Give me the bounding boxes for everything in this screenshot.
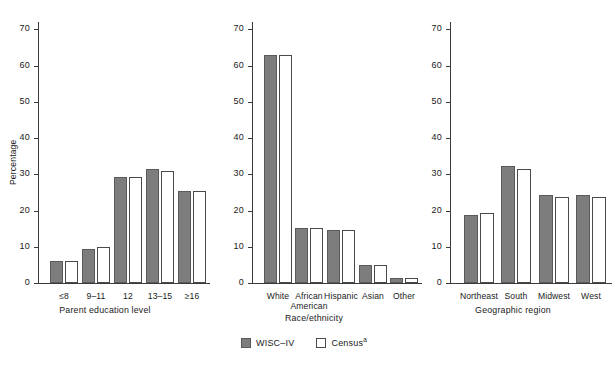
y-tick-label: 0	[4, 278, 30, 287]
bar-group	[390, 22, 418, 283]
x-axis-title: Parent education level	[0, 305, 210, 315]
plot-area-1: 010203040506070WhiteAfricanAmericanHispa…	[210, 0, 418, 330]
x-tick-label: West	[557, 291, 616, 301]
legend-label-text: Census	[331, 338, 363, 348]
x-axis-title: Geographic region	[418, 305, 608, 315]
bar-census	[193, 191, 206, 283]
bar-group	[576, 22, 606, 283]
y-tick	[248, 247, 253, 248]
bar-wisc-iv	[264, 55, 277, 283]
bar-wisc-iv	[539, 195, 553, 283]
y-tick	[34, 247, 39, 248]
y-tick-label: 70	[416, 24, 442, 33]
legend-label-wisc: WISC–IV	[256, 338, 294, 348]
bar-census	[310, 228, 323, 283]
y-axis-line	[252, 22, 253, 284]
y-tick	[446, 138, 451, 139]
y-tick-label: 20	[218, 206, 244, 215]
y-axis-line	[38, 22, 39, 284]
y-tick-label: 50	[218, 97, 244, 106]
legend-item-census[interactable]: Censusa	[316, 338, 367, 348]
bar-wisc-iv	[390, 278, 403, 283]
x-axis-title: Race/ethnicity	[210, 313, 418, 323]
bar-group	[464, 22, 494, 283]
bar-wisc-iv	[576, 195, 590, 283]
bar-wisc-iv	[82, 249, 95, 283]
y-tick-label: 10	[4, 242, 30, 251]
bar-census	[97, 247, 110, 283]
bar-census	[161, 171, 174, 283]
bar-census	[374, 265, 387, 283]
x-tick-label-line: ≥16	[185, 291, 200, 301]
y-tick	[248, 102, 253, 103]
y-tick	[446, 211, 451, 212]
y-tick-label: 70	[4, 24, 30, 33]
x-axis-line	[38, 283, 210, 284]
y-tick	[446, 174, 451, 175]
chart-legend: WISC–IVCensusa	[0, 338, 608, 348]
y-tick	[446, 102, 451, 103]
y-tick-label: 10	[218, 242, 244, 251]
bar-census	[129, 177, 142, 283]
bar-group	[264, 22, 292, 283]
y-tick-label: 40	[416, 133, 442, 142]
legend-label-text: WISC–IV	[256, 338, 294, 348]
y-tick	[446, 29, 451, 30]
y-axis-title: Percentage	[8, 140, 18, 185]
bar-census	[65, 261, 78, 283]
y-tick	[248, 174, 253, 175]
y-tick-label: 50	[4, 97, 30, 106]
x-tick-label-line: Other	[393, 291, 415, 301]
y-tick-label: 60	[218, 61, 244, 70]
y-tick-label: 70	[218, 24, 244, 33]
x-tick-label-line: American	[275, 301, 343, 311]
y-tick	[248, 283, 253, 284]
bar-census	[480, 213, 494, 283]
bar-wisc-iv	[178, 191, 191, 283]
y-tick-label: 20	[4, 206, 30, 215]
bar-wisc-iv	[359, 265, 372, 283]
bar-group	[295, 22, 323, 283]
y-tick	[34, 66, 39, 67]
y-tick-label: 60	[4, 61, 30, 70]
y-tick	[446, 66, 451, 67]
bar-wisc-iv	[464, 215, 478, 283]
y-tick-label: 30	[416, 169, 442, 178]
y-tick	[34, 138, 39, 139]
chart-panel-2: 010203040506070NortheastSouthMidwestWest…	[418, 0, 608, 330]
y-tick	[34, 102, 39, 103]
y-tick-label: 60	[416, 61, 442, 70]
bar-group	[327, 22, 355, 283]
plot-area-0: 010203040506070Percentage≤89–111213–15≥1…	[0, 0, 210, 330]
legend-item-wisc[interactable]: WISC–IV	[241, 338, 294, 348]
y-tick	[34, 283, 39, 284]
bar-group	[501, 22, 531, 283]
bar-group	[146, 22, 174, 283]
y-tick-label: 30	[218, 169, 244, 178]
y-tick-label: 0	[218, 278, 244, 287]
legend-label-census: Censusa	[331, 338, 367, 348]
y-tick	[34, 211, 39, 212]
bar-census	[555, 197, 569, 283]
plot-area-2: 010203040506070NortheastSouthMidwestWest…	[418, 0, 608, 330]
y-tick-label: 0	[416, 278, 442, 287]
bar-wisc-iv	[114, 177, 127, 283]
bar-census	[517, 169, 531, 283]
x-tick-label-line: West	[581, 291, 601, 301]
bar-group	[539, 22, 569, 283]
y-tick-label: 20	[416, 206, 442, 215]
y-tick	[446, 247, 451, 248]
bar-wisc-iv	[327, 230, 340, 283]
bar-census	[342, 230, 355, 283]
x-axis-line	[450, 283, 612, 284]
y-axis-line	[450, 22, 451, 284]
y-tick-label: 50	[416, 97, 442, 106]
y-tick	[446, 283, 451, 284]
bar-census	[592, 197, 606, 283]
bar-group	[82, 22, 110, 283]
bar-census	[279, 55, 292, 283]
legend-footnote-marker: a	[363, 336, 367, 343]
y-tick	[248, 138, 253, 139]
bar-wisc-iv	[146, 169, 159, 283]
